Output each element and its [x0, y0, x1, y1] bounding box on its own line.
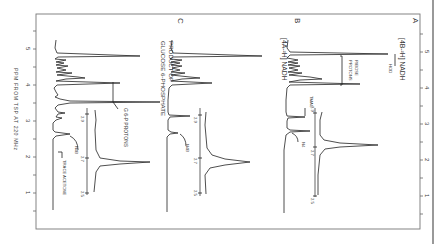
- right-tick-2: 2: [424, 158, 430, 162]
- left-tick-5: 5: [25, 47, 31, 51]
- panel-title-b: [4A-²H] NADH: [280, 38, 288, 81]
- label-n4b-b: N4B: [185, 144, 190, 152]
- inset-b-27: 2.7: [193, 158, 198, 164]
- label-ribose-1: RIBOSE: [354, 60, 359, 76]
- label-trace-acetone: TRACE ACETONE: [62, 160, 67, 195]
- nmr-figure: 5 4 3 2 1 PPM FROM TSP AT 220 MHz 5 4 3 …: [0, 0, 446, 244]
- label-n4b-c: N4B: [74, 146, 79, 154]
- inset-b-25: 2.5: [193, 190, 198, 196]
- panel-label-c: C: [176, 18, 185, 24]
- panel-title-a: [4B-²H] NADH: [398, 38, 406, 81]
- inset-a-25: 2.5: [310, 198, 315, 204]
- spectrum-a: [284, 40, 395, 213]
- inset-a-27: 2.7: [310, 150, 315, 156]
- right-tick-5: 5: [424, 50, 430, 54]
- left-tick-2: 2: [25, 155, 31, 159]
- panel-title-c-line2: GLUCOSE 6-PHOSPHATE: [160, 41, 167, 116]
- left-tick-3: 3: [25, 119, 31, 123]
- spectrum-c: [53, 40, 160, 210]
- label-g6p-protons: G 6-P PROTONS: [123, 108, 129, 148]
- label-n4-a: N4: [301, 142, 306, 148]
- spectrum-b: [167, 40, 262, 212]
- right-tick-3: 3: [424, 122, 430, 126]
- right-axis: [420, 34, 423, 214]
- plot-frame: [36, 14, 420, 229]
- inset-a-29: 2.9: [310, 106, 315, 112]
- axis-title: PPM FROM TSP AT 220 MHz: [13, 68, 19, 151]
- panel-label-a: A: [411, 18, 420, 24]
- inset-c-29: 2.9: [80, 116, 85, 122]
- label-hod: HOD: [388, 64, 393, 73]
- right-tick-4: 4: [424, 86, 430, 90]
- inset-c-27: 2.7: [80, 156, 85, 162]
- inset-c-25: 2.5: [80, 191, 85, 197]
- inset-b-29: 2.9: [193, 117, 198, 123]
- label-ribose-2: PROTONS: [348, 60, 353, 81]
- left-tick-1: 1: [25, 191, 31, 195]
- left-tick-4: 4: [25, 83, 31, 87]
- right-tick-1: 1: [424, 194, 430, 198]
- panel-label-b: B: [293, 18, 302, 23]
